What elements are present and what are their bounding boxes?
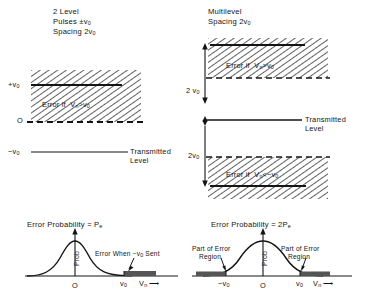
right-title-line1: Multilevel <box>208 7 242 17</box>
right-upper-error-region-label: Error if Vn>v0 <box>226 61 274 72</box>
left-title-line3: Spacing 2v0 <box>53 27 96 38</box>
right-upper-spacing-arrowhead-down <box>202 98 208 105</box>
left-plot-origin-label: O <box>72 281 78 290</box>
right-title-line2: Spacing 2v0 <box>208 17 251 28</box>
left-plot-annotation: Error When −v0 Sent <box>95 250 160 259</box>
left-plot-error-shade <box>124 271 156 276</box>
right-transmitted-label-line2: Level <box>305 124 324 133</box>
right-plot-left-arrowhead <box>222 266 226 272</box>
left-axis-minus-v0: −v0 <box>8 147 19 158</box>
right-spacing-bottom-label: 2v0 <box>188 151 199 162</box>
left-transmitted-label-line2: Level <box>130 156 149 165</box>
right-plot-right-arrowhead <box>301 266 305 272</box>
left-plot-x-axis-label: Vn ⟶ <box>139 279 160 290</box>
right-upper-spacing-arrowhead-up <box>202 43 208 50</box>
left-title-line1: 2 Level <box>53 7 79 17</box>
right-plot-minus-v0-tick-label: −v0 <box>218 279 229 290</box>
right-plot-title: Error Probability = 2Pe <box>211 220 291 231</box>
right-plot-right-annotation-line2: Region <box>288 253 310 261</box>
right-transmitted-label-line1: Transmitted <box>305 115 346 124</box>
left-error-band <box>31 70 141 122</box>
left-axis-plus-v0: +v0 <box>8 80 19 91</box>
right-plot-right-error-shade <box>300 272 330 277</box>
left-error-region-label: Error if Vn>v0 <box>42 100 90 111</box>
right-plot-x-axis-label: Vn ⟶ <box>313 279 334 290</box>
right-lower-spacing-arrowhead-down <box>202 181 208 188</box>
right-plot-y-axis-label: Prob <box>261 251 268 266</box>
right-plot-origin-label: O <box>260 281 266 290</box>
right-plot-left-annotation-line1: Part of Error <box>192 245 231 253</box>
right-plot-right-annotation-line1: Part of Error <box>281 245 320 253</box>
left-axis-zero: O <box>17 116 23 125</box>
right-plot-left-error-shade <box>196 272 226 277</box>
left-transmitted-label-line1: Transmitted <box>130 147 171 156</box>
right-plot-left-annotation-line2: Region <box>199 253 221 261</box>
right-spacing-top-label: 2 v0 <box>186 86 199 97</box>
left-plot-y-axis-label: Prob <box>73 251 80 266</box>
signaling-error-figure: 2 Level Pulses ±v0 Spacing 2v0 Multileve… <box>0 0 367 297</box>
right-lower-error-region-label: Error if Vn<−v0 <box>226 170 278 181</box>
right-plot-v0-tick-label: v0 <box>296 279 303 290</box>
right-center-dot-lower <box>202 121 207 127</box>
left-plot-v0-tick-label: v0 <box>120 279 127 290</box>
left-plot-title: Error Probability = Pe <box>27 220 102 231</box>
